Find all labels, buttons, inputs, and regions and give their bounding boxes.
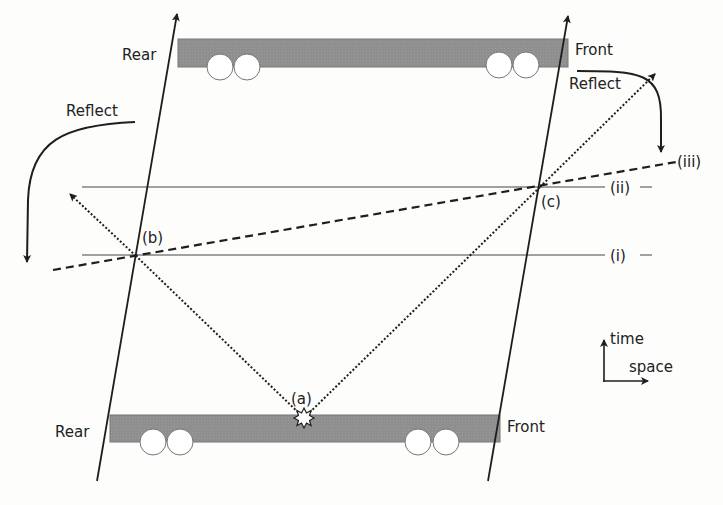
wheel-icon bbox=[207, 54, 233, 80]
wheel-icon bbox=[234, 54, 260, 80]
label-reflect-right: Reflect bbox=[569, 75, 621, 93]
flash-star-icon bbox=[294, 408, 314, 428]
label-front-top: Front bbox=[575, 41, 613, 59]
label-axis-time: time bbox=[610, 330, 644, 348]
wheel-icon bbox=[513, 52, 539, 78]
label-line-iii: (iii) bbox=[677, 153, 701, 171]
train-top bbox=[178, 39, 568, 80]
line-iii bbox=[53, 162, 676, 270]
label-event-a: (a) bbox=[291, 390, 312, 408]
label-event-b: (b) bbox=[142, 229, 163, 247]
label-rear-bottom: Rear bbox=[55, 423, 90, 441]
wheel-icon bbox=[167, 429, 193, 455]
label-event-c: (c) bbox=[541, 193, 561, 211]
label-reflect-left: Reflect bbox=[66, 102, 118, 120]
wheel-icon bbox=[433, 429, 459, 455]
label-front-bottom: Front bbox=[507, 418, 545, 436]
spacetime-diagram: Rear Front Rear Front Reflect Reflect (a… bbox=[0, 0, 723, 505]
label-line-ii: (ii) bbox=[610, 179, 630, 197]
wheel-icon bbox=[486, 52, 512, 78]
light-ray-back-ext bbox=[70, 194, 136, 256]
worldline-front bbox=[488, 16, 568, 481]
worldline-rear bbox=[97, 14, 177, 481]
light-ray-back bbox=[136, 256, 304, 418]
label-line-i: (i) bbox=[610, 247, 626, 265]
wheel-icon bbox=[405, 429, 431, 455]
label-rear-top: Rear bbox=[122, 46, 157, 64]
wheel-icon bbox=[140, 429, 166, 455]
reflect-left-arrow-icon bbox=[27, 122, 135, 262]
label-axis-space: space bbox=[629, 358, 673, 376]
